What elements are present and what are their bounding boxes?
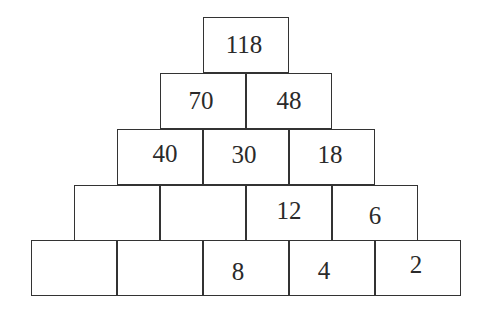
pyramid-cell-r3-c2: 12 bbox=[246, 185, 332, 241]
pyramid-cell-r2-c1: 30 bbox=[203, 129, 289, 185]
pyramid-cell-r4-c3: 4 bbox=[289, 240, 375, 296]
pyramid-cell-r3-c1[interactable] bbox=[160, 185, 246, 241]
pyramid-cell-r1-c1: 48 bbox=[246, 73, 332, 129]
pyramid-cell-r4-c1[interactable] bbox=[117, 240, 203, 296]
pyramid-cell-r4-c2: 8 bbox=[203, 240, 289, 296]
cell-value: 40 bbox=[153, 140, 178, 168]
cell-value: 6 bbox=[369, 202, 382, 230]
cell-value: 18 bbox=[318, 141, 343, 169]
number-pyramid: 118 70 48 40 30 18 12 6 8 4 2 bbox=[0, 0, 491, 315]
pyramid-cell-r2-c2: 18 bbox=[289, 129, 375, 185]
cell-value: 12 bbox=[277, 197, 302, 225]
pyramid-cell-r3-c3: 6 bbox=[332, 185, 418, 241]
pyramid-cell-r2-c0: 40 bbox=[117, 129, 203, 185]
cell-value: 8 bbox=[232, 258, 245, 286]
cell-value: 4 bbox=[318, 257, 331, 285]
pyramid-cell-r4-c4: 2 bbox=[375, 240, 461, 296]
cell-value: 30 bbox=[232, 141, 257, 169]
pyramid-cell-r0-c0: 118 bbox=[203, 17, 289, 73]
cell-value: 2 bbox=[410, 251, 423, 279]
cell-value: 48 bbox=[277, 87, 302, 115]
pyramid-cell-r3-c0[interactable] bbox=[74, 185, 160, 241]
cell-value: 118 bbox=[226, 31, 263, 59]
pyramid-cell-r1-c0: 70 bbox=[160, 73, 246, 129]
pyramid-cell-r4-c0[interactable] bbox=[31, 240, 117, 296]
cell-value: 70 bbox=[189, 87, 214, 115]
